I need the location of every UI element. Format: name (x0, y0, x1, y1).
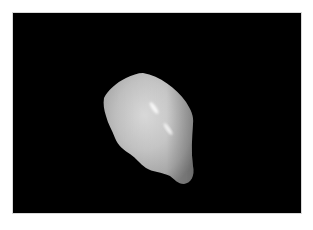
photo-frame (0, 0, 313, 230)
specimen-image (0, 0, 313, 230)
specimen-body (104, 73, 194, 184)
